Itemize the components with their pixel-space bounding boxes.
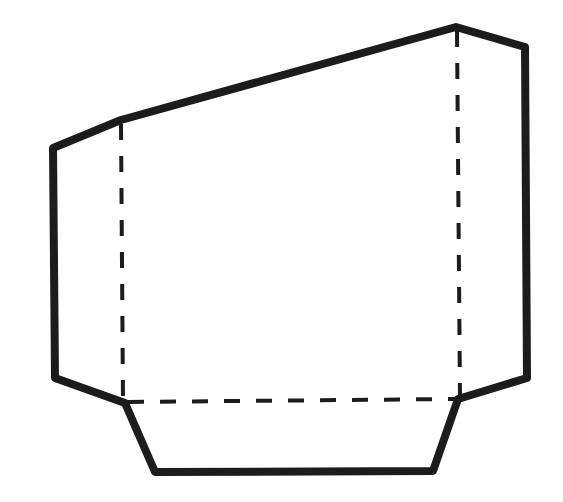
shape-diagram — [0, 0, 563, 502]
left-fold-line — [121, 124, 123, 401]
